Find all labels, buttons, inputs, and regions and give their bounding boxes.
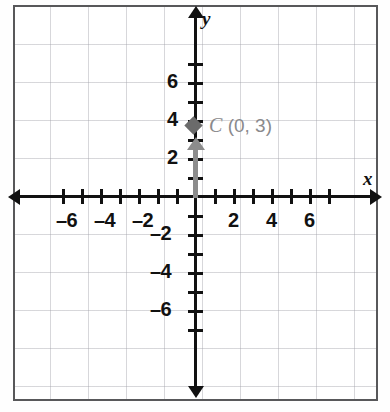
point-name-c: C [209, 114, 222, 136]
point-label-c: C (0, 3) [209, 114, 272, 137]
y-tick [188, 329, 203, 332]
x-tick [290, 189, 293, 204]
x-tick [100, 189, 103, 204]
y-tick [188, 310, 203, 313]
x-tick [233, 189, 236, 204]
y-tick-label: 6 [167, 70, 178, 93]
y-tick [188, 82, 203, 85]
x-tick [119, 189, 122, 204]
y-axis-label: y [202, 8, 210, 30]
x-axis-label: x [363, 168, 373, 190]
y-tick-label: –4 [150, 260, 171, 283]
y-tick [188, 272, 203, 275]
y-tick [188, 215, 203, 218]
x-tick [271, 189, 274, 204]
y-tick [188, 63, 203, 66]
x-tick-label: 4 [266, 209, 277, 232]
x-tick [62, 189, 65, 204]
x-tick [214, 189, 217, 204]
y-axis-down-arrowhead [188, 386, 204, 398]
x-axis-left-arrowhead [8, 189, 20, 205]
x-tick [81, 189, 84, 204]
y-axis-line [194, 14, 197, 390]
x-axis-right-arrowhead [370, 189, 382, 205]
coordinate-plane-figure: –6–4–2246642–2–4–6 x y C (0, 3) [0, 0, 390, 412]
y-tick [188, 253, 203, 256]
x-tick-label: 2 [228, 209, 239, 232]
y-tick [188, 101, 203, 104]
x-tick [138, 189, 141, 204]
y-tick-label: 4 [167, 108, 178, 131]
y-tick-label: 2 [167, 146, 178, 169]
vector-shaft [193, 146, 198, 198]
x-tick [157, 189, 160, 204]
y-tick-label: –6 [150, 298, 171, 321]
x-tick [252, 189, 255, 204]
x-tick [309, 189, 312, 204]
x-tick-label: 6 [304, 209, 315, 232]
x-tick [328, 189, 331, 204]
y-tick-label: –2 [150, 222, 171, 245]
x-tick-label: –4 [94, 209, 115, 232]
vector-arrowhead-icon [187, 137, 205, 150]
x-tick-label: –6 [56, 209, 77, 232]
y-tick [188, 291, 203, 294]
y-tick [188, 234, 203, 237]
x-tick [176, 189, 179, 204]
point-coords-text-c: (0, 3) [228, 115, 272, 136]
